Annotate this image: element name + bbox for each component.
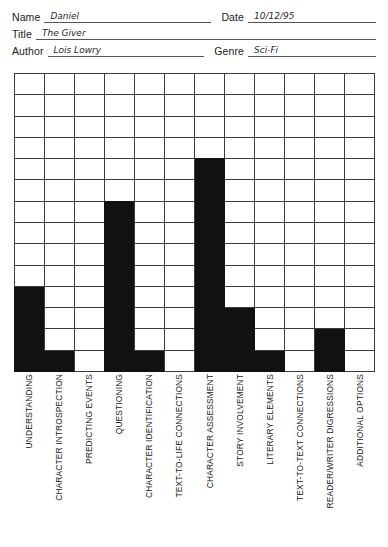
grid-cell[interactable] bbox=[165, 202, 195, 223]
grid-cell[interactable] bbox=[45, 266, 75, 287]
grid-cell[interactable] bbox=[285, 266, 315, 287]
grid-cell[interactable] bbox=[75, 223, 105, 244]
grid-cell[interactable] bbox=[255, 287, 285, 308]
grid-cell[interactable] bbox=[105, 287, 135, 308]
grid-cell[interactable] bbox=[195, 138, 225, 159]
grid-cell[interactable] bbox=[315, 74, 345, 95]
grid-cell[interactable] bbox=[165, 117, 195, 138]
grid-cell[interactable] bbox=[315, 138, 345, 159]
grid-cell[interactable] bbox=[255, 74, 285, 95]
grid-cell[interactable] bbox=[45, 329, 75, 350]
grid-cell[interactable] bbox=[195, 202, 225, 223]
grid-cell[interactable] bbox=[165, 74, 195, 95]
grid-cell[interactable] bbox=[135, 202, 165, 223]
grid-cell[interactable] bbox=[75, 117, 105, 138]
name-field[interactable]: Daniel bbox=[44, 9, 211, 23]
grid-cell[interactable] bbox=[195, 244, 225, 265]
grid-cell[interactable] bbox=[345, 308, 375, 329]
grid-cell[interactable] bbox=[15, 329, 45, 350]
grid-cell[interactable] bbox=[285, 223, 315, 244]
grid-cell[interactable] bbox=[255, 117, 285, 138]
grid-cell[interactable] bbox=[315, 308, 345, 329]
grid-cell[interactable] bbox=[315, 244, 345, 265]
grid-cell[interactable] bbox=[345, 244, 375, 265]
grid-cell[interactable] bbox=[195, 287, 225, 308]
grid-cell[interactable] bbox=[225, 95, 255, 116]
grid-cell[interactable] bbox=[75, 266, 105, 287]
grid-cell[interactable] bbox=[225, 308, 255, 329]
grid-cell[interactable] bbox=[135, 159, 165, 180]
genre-field[interactable]: Sci-Fi bbox=[248, 43, 376, 57]
grid-cell[interactable] bbox=[105, 117, 135, 138]
grid-cell[interactable] bbox=[135, 308, 165, 329]
grid-cell[interactable] bbox=[165, 266, 195, 287]
grid-cell[interactable] bbox=[225, 266, 255, 287]
grid-cell[interactable] bbox=[225, 244, 255, 265]
grid-cell[interactable] bbox=[15, 95, 45, 116]
grid-cell[interactable] bbox=[195, 329, 225, 350]
date-field[interactable]: 10/12/95 bbox=[248, 9, 376, 23]
grid-cell[interactable] bbox=[285, 95, 315, 116]
grid-cell[interactable] bbox=[105, 202, 135, 223]
grid-cell[interactable] bbox=[15, 308, 45, 329]
grid-cell[interactable] bbox=[135, 287, 165, 308]
grid-cell[interactable] bbox=[225, 287, 255, 308]
grid-cell[interactable] bbox=[75, 287, 105, 308]
grid-cell[interactable] bbox=[255, 244, 285, 265]
grid-cell[interactable] bbox=[315, 287, 345, 308]
grid-cell[interactable] bbox=[345, 287, 375, 308]
grid-cell[interactable] bbox=[165, 308, 195, 329]
grid-cell[interactable] bbox=[255, 159, 285, 180]
grid-cell[interactable] bbox=[165, 351, 195, 372]
grid-cell[interactable] bbox=[135, 223, 165, 244]
grid-cell[interactable] bbox=[45, 244, 75, 265]
grid-cell[interactable] bbox=[135, 180, 165, 201]
grid-cell[interactable] bbox=[345, 351, 375, 372]
grid-cell[interactable] bbox=[285, 329, 315, 350]
grid-cell[interactable] bbox=[165, 159, 195, 180]
grid-cell[interactable] bbox=[255, 308, 285, 329]
grid-cell[interactable] bbox=[45, 159, 75, 180]
grid-cell[interactable] bbox=[255, 329, 285, 350]
grid-cell[interactable] bbox=[15, 117, 45, 138]
grid-cell[interactable] bbox=[315, 266, 345, 287]
grid-cell[interactable] bbox=[285, 202, 315, 223]
grid-cell[interactable] bbox=[285, 138, 315, 159]
grid-cell[interactable] bbox=[45, 74, 75, 95]
grid-cell[interactable] bbox=[75, 159, 105, 180]
grid-cell[interactable] bbox=[345, 180, 375, 201]
grid-cell[interactable] bbox=[225, 117, 255, 138]
grid-cell[interactable] bbox=[225, 159, 255, 180]
grid-cell[interactable] bbox=[315, 202, 345, 223]
grid-cell[interactable] bbox=[15, 287, 45, 308]
grid-cell[interactable] bbox=[195, 180, 225, 201]
grid-cell[interactable] bbox=[45, 95, 75, 116]
grid-cell[interactable] bbox=[15, 244, 45, 265]
grid-cell[interactable] bbox=[315, 329, 345, 350]
author-field[interactable]: Lois Lowry bbox=[48, 43, 205, 57]
grid-cell[interactable] bbox=[255, 351, 285, 372]
grid-cell[interactable] bbox=[315, 180, 345, 201]
grid-cell[interactable] bbox=[255, 202, 285, 223]
grid-cell[interactable] bbox=[285, 117, 315, 138]
grid-cell[interactable] bbox=[15, 74, 45, 95]
grid-cell[interactable] bbox=[15, 138, 45, 159]
grid-cell[interactable] bbox=[105, 329, 135, 350]
grid-cell[interactable] bbox=[165, 180, 195, 201]
grid-cell[interactable] bbox=[15, 266, 45, 287]
grid-cell[interactable] bbox=[75, 351, 105, 372]
grid-cell[interactable] bbox=[165, 244, 195, 265]
grid-cell[interactable] bbox=[225, 202, 255, 223]
grid-cell[interactable] bbox=[15, 351, 45, 372]
grid-cell[interactable] bbox=[345, 266, 375, 287]
grid-cell[interactable] bbox=[45, 117, 75, 138]
grid-cell[interactable] bbox=[165, 223, 195, 244]
grid-cell[interactable] bbox=[225, 180, 255, 201]
grid-cell[interactable] bbox=[255, 95, 285, 116]
grid-cell[interactable] bbox=[195, 117, 225, 138]
grid-cell[interactable] bbox=[75, 244, 105, 265]
grid-cell[interactable] bbox=[135, 138, 165, 159]
grid-cell[interactable] bbox=[75, 180, 105, 201]
grid-cell[interactable] bbox=[135, 95, 165, 116]
grid-cell[interactable] bbox=[255, 223, 285, 244]
